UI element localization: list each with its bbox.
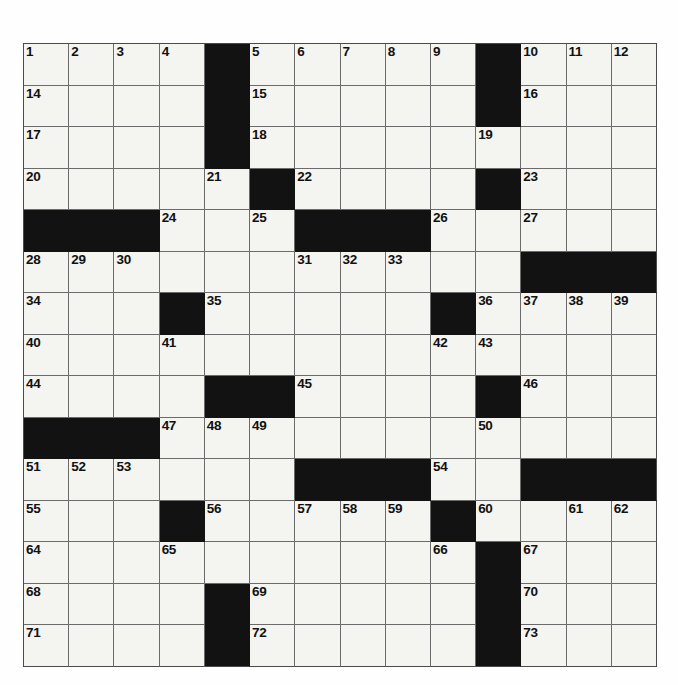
grid-open-cell[interactable]: [386, 127, 431, 169]
grid-open-cell[interactable]: [431, 625, 476, 667]
grid-open-cell[interactable]: 21: [205, 169, 250, 211]
grid-open-cell[interactable]: 39: [612, 293, 657, 335]
grid-open-cell[interactable]: [205, 335, 250, 377]
grid-open-cell[interactable]: 67: [521, 542, 566, 584]
grid-open-cell[interactable]: [250, 501, 295, 543]
grid-open-cell[interactable]: [205, 459, 250, 501]
grid-open-cell[interactable]: 14: [24, 86, 69, 128]
grid-open-cell[interactable]: 28: [24, 252, 69, 294]
grid-open-cell[interactable]: [295, 625, 340, 667]
grid-open-cell[interactable]: 43: [476, 335, 521, 377]
grid-open-cell[interactable]: 51: [24, 459, 69, 501]
grid-open-cell[interactable]: [612, 418, 657, 460]
grid-open-cell[interactable]: 48: [205, 418, 250, 460]
grid-open-cell[interactable]: 34: [24, 293, 69, 335]
grid-open-cell[interactable]: [69, 293, 114, 335]
grid-open-cell[interactable]: 4: [160, 44, 205, 86]
grid-open-cell[interactable]: 42: [431, 335, 476, 377]
grid-open-cell[interactable]: [295, 335, 340, 377]
grid-open-cell[interactable]: 71: [24, 625, 69, 667]
grid-open-cell[interactable]: [431, 584, 476, 626]
grid-open-cell[interactable]: 58: [341, 501, 386, 543]
grid-open-cell[interactable]: [250, 542, 295, 584]
grid-open-cell[interactable]: 20: [24, 169, 69, 211]
grid-open-cell[interactable]: [341, 542, 386, 584]
grid-open-cell[interactable]: 57: [295, 501, 340, 543]
grid-open-cell[interactable]: [386, 86, 431, 128]
grid-open-cell[interactable]: 60: [476, 501, 521, 543]
grid-open-cell[interactable]: [205, 252, 250, 294]
grid-open-cell[interactable]: [114, 625, 159, 667]
grid-open-cell[interactable]: [612, 625, 657, 667]
grid-open-cell[interactable]: [612, 542, 657, 584]
grid-open-cell[interactable]: 64: [24, 542, 69, 584]
grid-open-cell[interactable]: [386, 625, 431, 667]
grid-open-cell[interactable]: [431, 418, 476, 460]
grid-open-cell[interactable]: 18: [250, 127, 295, 169]
grid-open-cell[interactable]: 37: [521, 293, 566, 335]
grid-open-cell[interactable]: 69: [250, 584, 295, 626]
grid-open-cell[interactable]: [69, 86, 114, 128]
grid-open-cell[interactable]: [567, 127, 612, 169]
grid-open-cell[interactable]: [612, 210, 657, 252]
grid-open-cell[interactable]: [567, 584, 612, 626]
grid-open-cell[interactable]: 59: [386, 501, 431, 543]
grid-open-cell[interactable]: [521, 418, 566, 460]
grid-open-cell[interactable]: 49: [250, 418, 295, 460]
crossword-grid[interactable]: 1234567891011121415161718192021222324252…: [23, 43, 657, 667]
grid-open-cell[interactable]: [114, 169, 159, 211]
grid-open-cell[interactable]: 47: [160, 418, 205, 460]
grid-open-cell[interactable]: 19: [476, 127, 521, 169]
grid-open-cell[interactable]: 52: [69, 459, 114, 501]
grid-open-cell[interactable]: 27: [521, 210, 566, 252]
grid-open-cell[interactable]: [612, 335, 657, 377]
grid-open-cell[interactable]: [114, 293, 159, 335]
grid-open-cell[interactable]: [612, 169, 657, 211]
grid-open-cell[interactable]: [521, 127, 566, 169]
grid-open-cell[interactable]: 41: [160, 335, 205, 377]
grid-open-cell[interactable]: 73: [521, 625, 566, 667]
grid-open-cell[interactable]: 40: [24, 335, 69, 377]
grid-open-cell[interactable]: 6: [295, 44, 340, 86]
grid-open-cell[interactable]: [250, 252, 295, 294]
grid-open-cell[interactable]: [341, 293, 386, 335]
grid-open-cell[interactable]: [612, 584, 657, 626]
grid-open-cell[interactable]: [69, 169, 114, 211]
grid-open-cell[interactable]: 33: [386, 252, 431, 294]
grid-open-cell[interactable]: [567, 418, 612, 460]
grid-open-cell[interactable]: [341, 584, 386, 626]
grid-open-cell[interactable]: 72: [250, 625, 295, 667]
grid-open-cell[interactable]: [567, 210, 612, 252]
grid-open-cell[interactable]: [250, 335, 295, 377]
grid-open-cell[interactable]: 25: [250, 210, 295, 252]
grid-open-cell[interactable]: [295, 127, 340, 169]
grid-open-cell[interactable]: 1: [24, 44, 69, 86]
grid-open-cell[interactable]: [386, 293, 431, 335]
grid-open-cell[interactable]: 26: [431, 210, 476, 252]
grid-open-cell[interactable]: [567, 376, 612, 418]
grid-open-cell[interactable]: [341, 376, 386, 418]
grid-open-cell[interactable]: [521, 501, 566, 543]
grid-open-cell[interactable]: 15: [250, 86, 295, 128]
grid-open-cell[interactable]: [160, 459, 205, 501]
grid-open-cell[interactable]: 29: [69, 252, 114, 294]
grid-open-cell[interactable]: 44: [24, 376, 69, 418]
grid-open-cell[interactable]: [567, 542, 612, 584]
grid-open-cell[interactable]: [295, 584, 340, 626]
grid-open-cell[interactable]: [69, 127, 114, 169]
grid-open-cell[interactable]: 23: [521, 169, 566, 211]
grid-open-cell[interactable]: [160, 252, 205, 294]
grid-open-cell[interactable]: [205, 542, 250, 584]
grid-open-cell[interactable]: 46: [521, 376, 566, 418]
grid-open-cell[interactable]: [386, 169, 431, 211]
grid-open-cell[interactable]: [612, 127, 657, 169]
grid-open-cell[interactable]: [114, 376, 159, 418]
grid-open-cell[interactable]: [386, 584, 431, 626]
grid-open-cell[interactable]: 2: [69, 44, 114, 86]
grid-open-cell[interactable]: [567, 335, 612, 377]
grid-open-cell[interactable]: 31: [295, 252, 340, 294]
grid-open-cell[interactable]: 35: [205, 293, 250, 335]
grid-open-cell[interactable]: [431, 376, 476, 418]
grid-open-cell[interactable]: [160, 86, 205, 128]
grid-open-cell[interactable]: [160, 169, 205, 211]
